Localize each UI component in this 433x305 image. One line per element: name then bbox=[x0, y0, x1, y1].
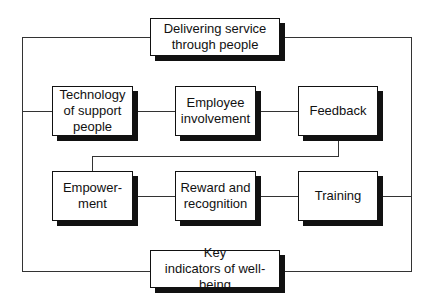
connector-feedback-down bbox=[338, 135, 339, 157]
connector-left-to-technology bbox=[22, 111, 52, 112]
connector-empowerment-up bbox=[92, 156, 93, 171]
box-employee-involvement: Employee involvement bbox=[175, 86, 256, 136]
box-technology-support: Technology of support people bbox=[52, 86, 133, 136]
connector-technology-to-employee bbox=[133, 111, 175, 112]
connector-training-to-right bbox=[378, 196, 412, 197]
box-reward-recognition: Reward and recognition bbox=[175, 171, 256, 221]
connector-reward-to-training bbox=[256, 196, 298, 197]
box-delivering-service: Delivering service through people bbox=[150, 18, 280, 56]
box-empowerment: Empower- ment bbox=[52, 171, 133, 221]
connector-employee-to-feedback bbox=[256, 111, 298, 112]
box-feedback: Feedback bbox=[298, 86, 378, 136]
box-key-indicators: Key indicators of well-being bbox=[150, 250, 280, 288]
connector-feedback-across bbox=[92, 156, 339, 157]
outer-loop-left bbox=[22, 37, 23, 272]
box-training: Training bbox=[298, 171, 378, 221]
connector-empowerment-to-reward bbox=[133, 196, 175, 197]
outer-loop-right bbox=[411, 37, 412, 272]
